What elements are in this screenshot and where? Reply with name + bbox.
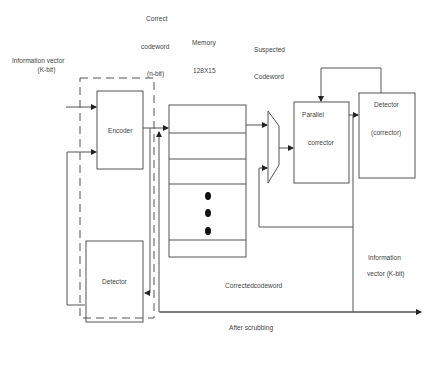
label-codeword: codeword [141,42,169,51]
corrector-paren-label: (corrector) [371,128,401,137]
detector-left-label: Detector [102,277,127,286]
label-information-vector-in: Information vector (K-bit) [12,56,65,74]
diagram-canvas [0,0,437,365]
label-suspected-codeword: Codeword [254,72,284,81]
label-vector-kbit: vector (K-bit) [367,269,405,278]
corrector-label: corrector [308,138,334,147]
label-information: Information [368,253,401,262]
label-suspected: Suspected [254,45,285,54]
label-memory: Memory [192,38,216,47]
encoder-label: Encoder [108,126,132,135]
label-corrected-codeword: Correctedcodeword [225,281,282,290]
label-line: (K-bit) [12,65,65,74]
label-line: Information vector [12,56,65,65]
label-nbit: (n-bit) [147,69,164,78]
multiplexer [268,111,279,183]
parallel-label: Parallel [302,110,324,119]
label-memory-size: 128X15 [193,66,216,75]
label-correct: Correct [146,14,168,23]
detector-right-label: Detector [374,100,399,109]
label-after-scrubbing: After scrubbing [229,323,273,332]
